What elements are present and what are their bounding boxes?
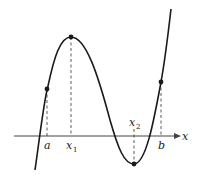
point-b <box>159 80 164 85</box>
svg-text:1: 1 <box>73 146 77 154</box>
point-x1-max <box>69 35 74 40</box>
point-x2-min <box>132 162 137 167</box>
label-x1: x 1 <box>66 139 77 154</box>
svg-text:x: x <box>66 139 73 152</box>
point-a <box>45 87 50 92</box>
svg-text:x: x <box>129 116 136 129</box>
cubic-extrema-diagram: x a x 1 x 2 b <box>0 0 197 179</box>
axis-label-x: x <box>182 130 189 143</box>
label-x2: x 2 <box>129 116 140 131</box>
svg-text:2: 2 <box>136 123 140 131</box>
function-curve <box>35 9 171 170</box>
label-a: a <box>44 139 51 152</box>
axis-arrow-icon <box>174 133 181 139</box>
label-b: b <box>158 139 165 152</box>
